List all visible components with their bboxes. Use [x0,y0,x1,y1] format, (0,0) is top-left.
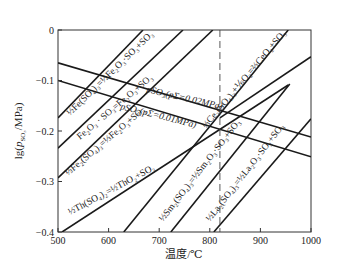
label-th: ½Th(SO₄)₂=½ThO₂+SO₃ [66,162,157,217]
phase-diagram-chart: 5006007008009001000 0−0.1−0.2−0.3−0.4 温度… [0,0,338,273]
label-sm: ½Sm₂(SO₄)₃=½Sm₂O₃·SO₃+SO₃ [157,118,243,224]
y-tick-label: 0 [49,25,54,36]
x-axis-ticks: 5006007008009001000 [51,228,322,246]
x-tick-label: 1000 [301,235,321,246]
x-tick-label: 700 [152,235,167,246]
y-tick-label: −0.1 [36,75,54,86]
x-tick-label: 800 [202,235,217,246]
x-tick-label: 900 [253,235,268,246]
y-tick-label: −0.3 [36,176,54,187]
y-tick-label: −0.2 [36,126,54,137]
x-tick-label: 600 [101,235,116,246]
label-ce: ⅓Ce₂(SO₄)₃+⅙O₂=⅔CeO₂+SO₃ [200,28,289,131]
y-tick-label: −0.4 [36,227,54,238]
inline-labels: ½Fe(SO₄)₃=½Fe₂O₃·SO₃+SO₃ Fe₂O₃ · SO₃=Fe₂… [63,28,289,224]
x-axis-label: 温度/℃ [165,247,202,260]
y-axis-label: lg(pSO₃/MPa) [12,102,27,159]
series-line [171,84,290,232]
